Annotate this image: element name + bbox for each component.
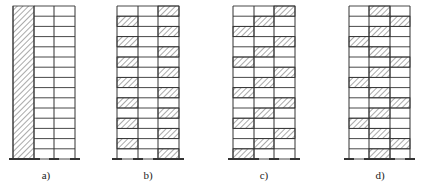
wall-panel-d xyxy=(369,149,390,159)
wall-panel-b xyxy=(158,26,179,36)
wall-panel-d xyxy=(369,108,390,118)
shear-wall-a xyxy=(13,6,34,159)
wall-panel-b xyxy=(117,118,138,128)
wall-panel-b xyxy=(117,98,138,108)
wall-panel-c xyxy=(254,16,274,26)
wall-panel-c xyxy=(233,118,254,128)
wall-panel-d xyxy=(390,57,410,67)
wall-panel-c xyxy=(254,77,274,87)
wall-panel-b xyxy=(158,6,179,16)
wall-panel-c xyxy=(233,149,254,159)
wall-panel-c xyxy=(254,47,274,57)
wall-panel-b xyxy=(117,16,138,26)
wall-panel-b xyxy=(158,67,179,77)
diagram-canvas: a) b) c) d) xyxy=(0,0,421,193)
wall-panel-d xyxy=(349,37,369,47)
wall-panel-c xyxy=(233,26,254,36)
wall-panel-d xyxy=(369,128,390,138)
wall-panel-d xyxy=(390,139,410,149)
wall-panel-d xyxy=(369,88,390,98)
wall-panel-c xyxy=(254,139,274,149)
wall-panel-c xyxy=(274,98,295,108)
wall-panel-c xyxy=(274,37,295,47)
frame-label-c: c) xyxy=(260,169,269,182)
wall-panel-d xyxy=(390,98,410,108)
wall-panel-c xyxy=(233,57,254,67)
wall-panel-d xyxy=(369,47,390,57)
wall-panel-d xyxy=(369,6,390,16)
wall-panel-b xyxy=(117,57,138,67)
wall-panel-d xyxy=(349,118,369,128)
wall-panel-d xyxy=(369,26,390,36)
wall-panel-c xyxy=(254,108,274,118)
wall-panel-c xyxy=(274,6,295,16)
wall-panel-d xyxy=(349,77,369,87)
wall-panel-b xyxy=(158,108,179,118)
wall-panel-b xyxy=(117,77,138,87)
wall-panel-c xyxy=(233,88,254,98)
wall-panel-b xyxy=(158,149,179,159)
frame-label-a: a) xyxy=(42,169,51,182)
wall-panel-b xyxy=(158,128,179,138)
frame-label-b: b) xyxy=(143,169,153,182)
wall-panel-c xyxy=(274,128,295,138)
wall-panel-b xyxy=(158,47,179,57)
frame-label-d: d) xyxy=(375,169,385,182)
wall-panel-d xyxy=(369,67,390,77)
wall-panel-b xyxy=(117,139,138,149)
wall-panel-b xyxy=(117,37,138,47)
wall-panel-b xyxy=(158,88,179,98)
wall-panel-c xyxy=(274,67,295,77)
wall-panel-d xyxy=(390,16,410,26)
